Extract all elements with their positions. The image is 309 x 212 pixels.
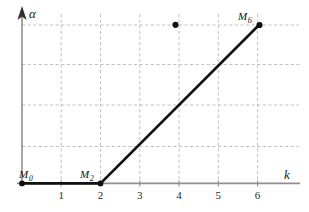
marker-m6 bbox=[256, 22, 262, 28]
point-label-m0-sub: 0 bbox=[29, 174, 33, 183]
plot-background bbox=[0, 0, 309, 212]
x-axis-label: k bbox=[284, 167, 290, 182]
point-label-m6-sub: 6 bbox=[248, 16, 252, 25]
plot-canvas: α k 1 2 3 4 5 6 M0 M2 M6 bbox=[0, 0, 309, 212]
marker-isolated-point bbox=[172, 22, 178, 28]
point-label-m2-sub: 2 bbox=[90, 174, 94, 183]
x-tick-label-5: 5 bbox=[216, 189, 222, 201]
x-tick-label-1: 1 bbox=[58, 189, 64, 201]
point-label-m0-base: M bbox=[18, 168, 29, 180]
chart-figure: α k 1 2 3 4 5 6 M0 M2 M6 bbox=[0, 0, 309, 212]
point-label-m6-base: M bbox=[237, 10, 248, 22]
y-axis-label: α bbox=[29, 6, 37, 21]
marker-m0 bbox=[19, 181, 25, 187]
marker-m2 bbox=[98, 181, 104, 187]
x-tick-label-4: 4 bbox=[176, 189, 182, 201]
x-tick-label-2: 2 bbox=[98, 189, 104, 201]
point-label-m2-base: M bbox=[79, 168, 90, 180]
x-tick-label-3: 3 bbox=[137, 189, 143, 201]
x-tick-label-6: 6 bbox=[255, 189, 261, 201]
